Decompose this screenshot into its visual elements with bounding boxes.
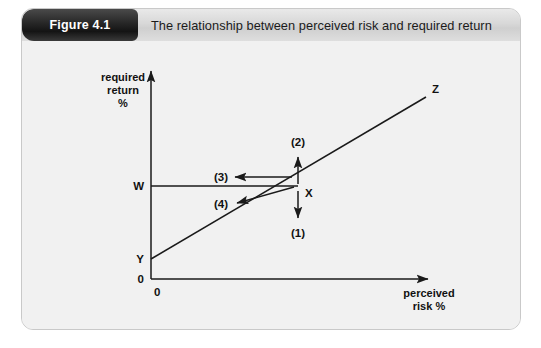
security-market-line <box>151 97 426 259</box>
annotation-4-group: (4) <box>214 187 294 210</box>
x-axis-origin-label: 0 <box>154 286 160 298</box>
annotation-2-label: (2) <box>291 136 305 148</box>
figure-header: Figure 4.1 The relationship between perc… <box>22 9 521 41</box>
annotation-4-label: (4) <box>214 198 228 210</box>
x-axis-title-line1: perceived <box>403 287 454 299</box>
annotation-3-label: (3) <box>214 171 228 183</box>
point-label-w: W <box>133 180 144 192</box>
x-axis-title-line2: risk % <box>413 300 446 312</box>
point-label-x: X <box>305 187 313 199</box>
y-axis-title-line1: required <box>101 71 145 83</box>
relationship-line-chart: required return % perceived risk % 0 0 Y… <box>22 41 521 330</box>
annotation-1-label: (1) <box>291 227 305 239</box>
point-label-z: Z <box>432 83 439 95</box>
y-axis-title: required return % <box>101 71 145 109</box>
figure-plot-area: required return % perceived risk % 0 0 Y… <box>22 41 521 330</box>
annotation-1-group: (1) <box>291 191 305 239</box>
annotation-4-arrow <box>237 187 294 203</box>
y-axis-origin-label: 0 <box>138 273 144 285</box>
figure-frame: Figure 4.1 The relationship between perc… <box>21 8 521 330</box>
figure-root: Figure 4.1 The relationship between perc… <box>0 0 541 348</box>
y-axis-title-line3: % <box>118 97 128 109</box>
figure-number-badge: Figure 4.1 <box>22 9 138 41</box>
annotation-2-group: (2) <box>291 136 305 184</box>
annotation-3-group: (3) <box>214 171 292 183</box>
axes-group <box>151 71 428 279</box>
y-axis-title-line2: return <box>107 84 139 96</box>
figure-caption: The relationship between perceived risk … <box>151 9 492 41</box>
point-label-y: Y <box>136 253 144 265</box>
x-axis-title: perceived risk % <box>403 287 454 312</box>
